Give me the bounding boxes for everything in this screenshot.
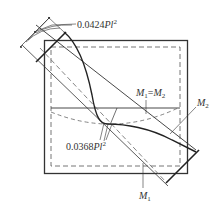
diagonal-axis [36,25,196,150]
moment-diagram: 0.0424Pl2 0.0368Pl2 M1=M2 M2 M1 [0,0,221,221]
leader-m2 [170,107,196,134]
center-leader-3 [106,124,112,140]
center-leader-1 [100,123,104,140]
label-center-moment: 0.0368Pl2 [66,140,106,152]
dim-line-2 [28,17,50,40]
dashed-arc [51,108,178,124]
plate-outline [45,41,188,174]
label-m1: M1 [138,190,151,203]
end-cap-bottom [166,150,199,183]
label-m1-equals-m2: M1=M2 [135,87,166,100]
center-vertical [110,108,117,125]
label-m2: M2 [196,97,209,110]
label-top-moment: 0.0424Pl2 [77,18,117,30]
